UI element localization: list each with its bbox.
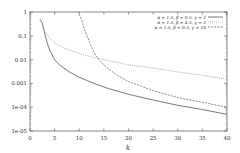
x-tick-label: 5 xyxy=(53,135,57,141)
x-tick-label: 15 xyxy=(100,135,107,141)
y-tick-label: 0.01 xyxy=(15,57,27,63)
series-line-2 xyxy=(45,32,227,80)
x-tick-label: 10 xyxy=(76,135,83,141)
x-tick-label: 30 xyxy=(174,135,181,141)
y-tick-label: 1e-05 xyxy=(11,128,27,134)
legend-label: α = 1.5, β = 0.5, γ = 10 xyxy=(154,25,206,30)
x-tick-label: 40 xyxy=(224,135,231,141)
x-tick-label: 0 xyxy=(28,135,32,141)
y-tick-label: 1 xyxy=(24,9,28,15)
x-tick-label: 20 xyxy=(125,135,132,141)
y-tick-label: 1e-04 xyxy=(11,104,27,110)
legend: α = 1.5, β = 0.5, γ = 2α = 1.5, β = 4.5,… xyxy=(154,15,223,30)
y-tick-label: 0.001 xyxy=(11,80,27,86)
plot-frame xyxy=(30,12,227,131)
x-axis-ticks: 0510152025303540 xyxy=(28,12,231,141)
x-axis-label: k xyxy=(126,144,130,152)
line-chart: 0510152025303540 1e-051e-040.0010.010.11… xyxy=(0,0,240,153)
y-tick-label: 0.1 xyxy=(18,33,27,39)
x-tick-label: 25 xyxy=(150,135,157,141)
series-line-1 xyxy=(40,19,227,114)
x-tick-label: 35 xyxy=(199,135,206,141)
